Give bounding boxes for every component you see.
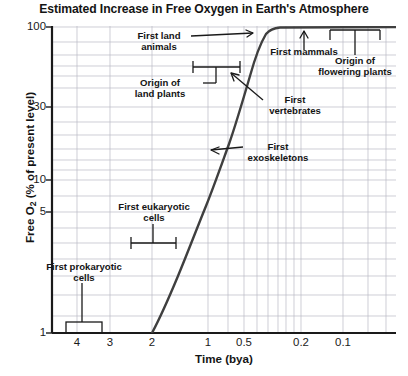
annotation-first-prokaryotic-cells-marker [66, 283, 102, 333]
oxygen-chart-figure: Estimated Increase in Free Oxygen in Ear… [0, 0, 408, 376]
annotation-first-eukaryotic-cells: First eukaryotic cells [112, 201, 196, 224]
annotation-first-land-animals: First land animals [128, 30, 190, 53]
annotation-origin-of-flowering-plants-line1: Origin of [306, 55, 404, 66]
annotation-origin-of-land-plants-line2: land plants [118, 88, 202, 99]
annotation-first-exoskeletons-line2: exoskeletons [242, 152, 314, 163]
annotation-first-eukaryotic-cells-line1: First eukaryotic [112, 201, 196, 212]
annotation-origin-of-land-plants: Origin of land plants [118, 77, 202, 100]
annotation-first-vertebrates-line1: First [262, 94, 328, 105]
annotation-origin-of-flowering-plants: Origin of flowering plants [306, 55, 404, 78]
annotation-origin-of-flowering-plants-line2: flowering plants [306, 66, 404, 77]
annotation-first-land-animals-line1: First land [128, 30, 190, 41]
annotation-first-exoskeletons-line1: First [242, 141, 314, 152]
annotation-first-eukaryotic-cells-line2: cells [112, 212, 196, 223]
annotation-first-vertebrates: First vertebrates [262, 94, 328, 117]
annotation-first-prokaryotic-cells: First prokaryotic cells [40, 261, 128, 284]
annotation-first-vertebrates-line2: vertebrates [262, 105, 328, 116]
annotation-first-prokaryotic-cells-line2: cells [40, 272, 128, 283]
annotation-origin-of-land-plants-line1: Origin of [118, 77, 202, 88]
annotation-first-exoskeletons: First exoskeletons [242, 141, 314, 164]
annotation-first-prokaryotic-cells-line1: First prokaryotic [40, 261, 128, 272]
annotation-first-land-animals-line2: animals [128, 41, 190, 52]
annotation-first-vertebrates-marker [231, 73, 263, 100]
